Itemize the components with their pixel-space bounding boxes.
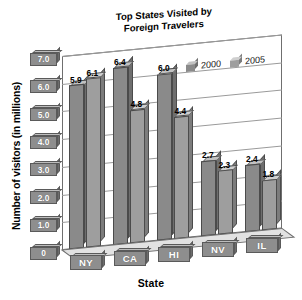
legend-label: 2000 — [201, 59, 221, 71]
tag-face: NV — [202, 242, 234, 257]
tag-face: 7.0 — [30, 53, 57, 66]
legend-cube-icon — [230, 57, 241, 68]
y-tick-7.0: 7.0 — [30, 53, 57, 66]
x-tick-hi: HI — [158, 247, 190, 262]
x-tick-il: IL — [246, 238, 278, 253]
value-label: 2.3 — [219, 160, 231, 170]
value-label: 2.7 — [202, 150, 214, 160]
y-tick-6.0: 6.0 — [30, 80, 57, 93]
legend-cube-front — [186, 64, 195, 72]
y-tick-1.0: 1.0 — [30, 219, 57, 232]
tag-face: NY — [70, 255, 102, 270]
value-label: 5.9 — [70, 75, 82, 85]
value-label: 2.4 — [246, 154, 258, 164]
y-tick-4.0: 4.0 — [30, 136, 57, 149]
value-label: 4.8 — [131, 99, 143, 109]
tag-face: 3.0 — [30, 163, 57, 176]
tag-face: 5.0 — [30, 108, 57, 121]
y-tick-2.0: 2.0 — [30, 191, 57, 204]
value-label: 4.4 — [175, 106, 187, 116]
y-tick-5.0: 5.0 — [30, 108, 57, 121]
tag-face: 4.0 — [30, 136, 57, 149]
value-label: 6.0 — [158, 63, 170, 73]
y-tick-0: 0 — [30, 247, 57, 260]
x-axis-title: State — [0, 277, 302, 289]
legend-cube-front — [230, 59, 239, 67]
legend-cube-icon — [186, 61, 197, 72]
tag-face: 6.0 — [30, 80, 57, 93]
x-tick-ca: CA — [114, 251, 146, 266]
tag-face: 0 — [30, 247, 57, 260]
value-label: 6.4 — [114, 57, 126, 67]
tag-face: 1.0 — [30, 219, 57, 232]
legend-label: 2005 — [245, 54, 265, 66]
tag-face: IL — [246, 238, 278, 253]
y-tick-3.0: 3.0 — [30, 163, 57, 176]
x-tick-ny: NY — [70, 255, 102, 270]
tag-face: CA — [114, 251, 146, 266]
value-label: 1.8 — [263, 169, 275, 179]
tag-face: HI — [158, 247, 190, 262]
bar-chart: Number of visitors (in millions) Top Sta… — [0, 0, 302, 300]
value-label: 6.1 — [87, 68, 99, 78]
tag-face: 2.0 — [30, 191, 57, 204]
x-tick-nv: NV — [202, 242, 234, 257]
